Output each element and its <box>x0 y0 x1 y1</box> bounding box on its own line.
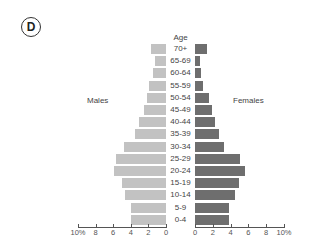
male-tick-label: 2 <box>140 228 156 235</box>
age-group-label: 45-49 <box>166 105 195 115</box>
tick-mark <box>284 224 285 227</box>
male-bar <box>122 178 166 188</box>
male-bar <box>144 105 166 115</box>
male-bar <box>147 93 166 103</box>
tick-mark <box>131 224 132 227</box>
female-tick-label: 10% <box>276 228 292 235</box>
male-bar <box>153 68 166 78</box>
tick-mark <box>248 224 249 227</box>
male-tick-label: 4 <box>123 228 139 235</box>
age-group-label: 50-54 <box>166 93 195 103</box>
male-bar <box>149 81 166 91</box>
males-label: Males <box>87 96 108 105</box>
age-group-label: 30-34 <box>166 142 195 152</box>
age-group-label: 70+ <box>166 44 195 54</box>
female-bar <box>195 129 219 139</box>
male-bar <box>131 203 166 213</box>
male-bar <box>135 129 166 139</box>
females-label: Females <box>233 96 264 105</box>
male-bar <box>124 142 166 152</box>
panel-label-badge: D <box>21 17 41 37</box>
age-group-label: 25-29 <box>166 154 195 164</box>
female-tick-label: 2 <box>205 228 221 235</box>
male-bar <box>139 117 166 127</box>
tick-mark <box>113 224 114 227</box>
tick-mark <box>231 224 232 227</box>
age-group-label: 60-64 <box>166 68 195 78</box>
panel-label: D <box>27 20 36 34</box>
female-bar <box>195 44 207 54</box>
female-bar <box>195 68 201 78</box>
age-group-label: 20-24 <box>166 166 195 176</box>
female-bar <box>195 105 212 115</box>
tick-mark <box>166 224 167 227</box>
tick-mark <box>148 224 149 227</box>
female-bar <box>195 154 240 164</box>
tick-mark <box>266 224 267 227</box>
male-bar <box>125 190 166 200</box>
age-group-label: 55-59 <box>166 81 195 91</box>
tick-mark <box>96 224 97 227</box>
male-bar <box>116 154 166 164</box>
tick-mark <box>195 224 196 227</box>
age-group-label: 35-39 <box>166 129 195 139</box>
female-tick-label: 8 <box>258 228 274 235</box>
age-axis-title: Age <box>166 33 195 42</box>
female-bar <box>195 142 224 152</box>
male-tick-label: 10% <box>70 228 86 235</box>
female-bar <box>195 190 235 200</box>
age-group-label: 5-9 <box>166 203 195 213</box>
age-group-label: 40-44 <box>166 117 195 127</box>
male-bar <box>151 44 166 54</box>
male-tick-label: 8 <box>88 228 104 235</box>
male-tick-label: 0 <box>158 228 174 235</box>
age-group-label: 10-14 <box>166 190 195 200</box>
age-group-label: 15-19 <box>166 178 195 188</box>
female-bar <box>195 81 203 91</box>
female-bar <box>195 93 209 103</box>
tick-mark <box>213 224 214 227</box>
female-bar <box>195 178 239 188</box>
female-tick-label: 6 <box>240 228 256 235</box>
female-bar <box>195 203 229 213</box>
female-tick-label: 0 <box>187 228 203 235</box>
tick-mark <box>78 224 79 227</box>
female-tick-label: 4 <box>223 228 239 235</box>
male-bar <box>114 166 166 176</box>
female-bar <box>195 166 245 176</box>
male-tick-label: 6 <box>105 228 121 235</box>
female-bar <box>195 56 200 66</box>
male-bar <box>155 56 166 66</box>
female-bar <box>195 117 215 127</box>
age-group-label: 65-69 <box>166 56 195 66</box>
age-group-label: 0-4 <box>166 215 195 225</box>
